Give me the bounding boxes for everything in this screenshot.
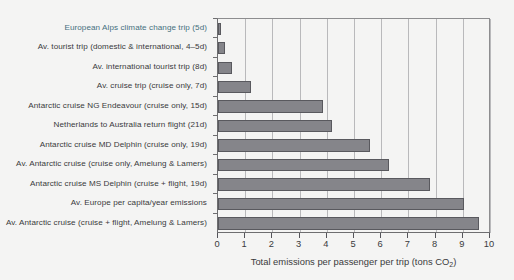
bar [218, 159, 389, 171]
category-label: Av. international tourist trip (8d) [92, 57, 207, 76]
x-axis-tick-label: 4 [311, 239, 341, 249]
category-label: European Alps climate change trip (5d) [64, 18, 207, 37]
category-label-column: European Alps climate change trip (5d)Av… [0, 18, 212, 232]
bar [218, 42, 225, 54]
bar [218, 178, 430, 190]
x-axis-tick-label: 0 [202, 239, 232, 249]
category-label: Av. Antarctic cruise (cruise + flight, A… [6, 213, 207, 232]
x-axis-title-main: Total emissions per passenger per trip (… [251, 256, 450, 267]
x-axis-tick [489, 233, 490, 238]
bar-row [218, 77, 490, 96]
category-label: Av. Antarctic cruise (cruise only, Amelu… [16, 154, 207, 173]
bar [218, 100, 323, 112]
y-axis-tick [213, 154, 217, 155]
category-label: Antarctic cruise MS Delphin (cruise + fl… [30, 174, 207, 193]
y-axis-tick [213, 96, 217, 97]
y-axis-tick [213, 76, 217, 77]
bar-row [218, 58, 490, 77]
category-label: Av. Europe per capita/year emissions [71, 193, 207, 212]
x-axis-tick [353, 233, 354, 238]
x-axis-tick [407, 233, 408, 238]
bar-row [218, 175, 490, 194]
bar-row [218, 214, 490, 233]
category-label: Antarctic cruise MD Delphin (cruise only… [40, 135, 207, 154]
x-axis-tick [244, 233, 245, 238]
x-axis-tick-label: 8 [420, 239, 450, 249]
bar [218, 139, 370, 151]
y-axis-tick [213, 135, 217, 136]
bar [218, 62, 232, 74]
x-axis-tick [217, 233, 218, 238]
x-axis-tick-label: 6 [365, 239, 395, 249]
x-axis-tick [326, 233, 327, 238]
bar-row [218, 97, 490, 116]
y-axis-tick [213, 57, 217, 58]
bar-row [218, 155, 490, 174]
x-axis-tick [271, 233, 272, 238]
bar-row [218, 194, 490, 213]
x-axis-tick [299, 233, 300, 238]
plot-right-border [489, 18, 490, 232]
x-axis-tick-label: 7 [392, 239, 422, 249]
x-axis-title: Total emissions per passenger per trip (… [217, 256, 490, 267]
category-label: Av. cruise trip (cruise only, 7d) [97, 76, 207, 95]
bar [218, 198, 464, 210]
x-axis-title-tail: ) [453, 256, 456, 267]
y-axis-tick [213, 193, 217, 194]
x-axis-tick [380, 233, 381, 238]
plot-area [217, 18, 490, 233]
y-axis-tick [213, 213, 217, 214]
x-axis-tick [435, 233, 436, 238]
bar [218, 23, 221, 35]
x-axis-tick-label: 9 [447, 239, 477, 249]
y-axis-tick [213, 115, 217, 116]
bar-row [218, 38, 490, 57]
category-label: Netherlands to Australia return flight (… [54, 115, 207, 134]
category-label: Av. tourist trip (domestic & internation… [38, 37, 207, 56]
x-axis-tick-label: 5 [338, 239, 368, 249]
bar-row [218, 116, 490, 135]
x-axis-tick-label: 2 [256, 239, 286, 249]
y-axis-tick [213, 37, 217, 38]
x-axis-tick-label: 1 [229, 239, 259, 249]
x-axis-tick-label: 10 [474, 239, 504, 249]
category-label: Antarctic cruise NG Endeavour (cruise on… [28, 96, 207, 115]
gridline-10 [490, 19, 491, 233]
y-axis-tick [213, 18, 217, 19]
x-axis-title-subscript: 2 [449, 261, 453, 268]
bar [218, 120, 332, 132]
bar [218, 217, 479, 229]
x-axis-tick-label: 3 [284, 239, 314, 249]
y-axis-tick [213, 174, 217, 175]
bar-row [218, 136, 490, 155]
bar-row [218, 19, 490, 38]
x-axis-tick [462, 233, 463, 238]
bar [218, 81, 251, 93]
emissions-bar-chart: European Alps climate change trip (5d)Av… [0, 0, 514, 280]
